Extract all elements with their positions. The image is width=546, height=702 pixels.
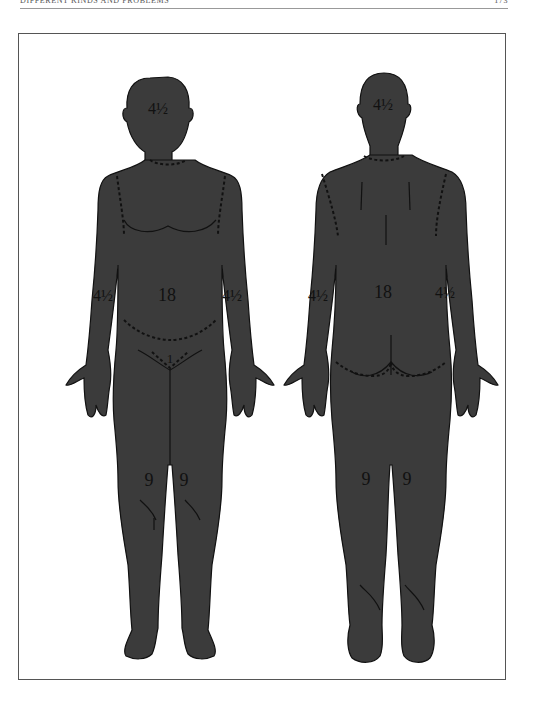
front-head xyxy=(123,77,193,165)
back-left-arm-label: 4½ xyxy=(435,284,455,301)
back-right-arm-label: 4½ xyxy=(308,287,328,304)
front-left-arm-label: 4½ xyxy=(222,287,242,304)
front-right-leg-label: 9 xyxy=(145,470,154,490)
back-right-leg-label: 9 xyxy=(362,469,371,489)
front-genitals-label: 1 xyxy=(167,351,174,366)
rule-of-nines-figure: 4½ 18 4½ 4½ 1 9 9 4½ 18 4½ 4½ 9 9 xyxy=(0,0,546,702)
back-torso xyxy=(284,155,498,662)
front-left-leg-label: 9 xyxy=(180,470,189,490)
front-head-label: 4½ xyxy=(148,100,168,117)
front-trunk-label: 18 xyxy=(158,285,176,305)
back-head-label: 4½ xyxy=(373,96,393,113)
back-trunk-label: 18 xyxy=(374,282,392,302)
front-right-arm-label: 4½ xyxy=(93,287,113,304)
back-left-leg-label: 9 xyxy=(403,469,412,489)
back-head xyxy=(357,73,411,158)
